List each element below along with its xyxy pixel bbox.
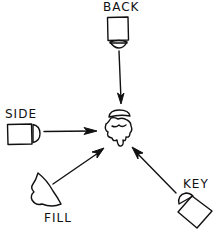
lighting-diagram: BACK SIDE FILL KEY xyxy=(0,0,224,229)
key-light-icon xyxy=(178,193,212,228)
side-arrow xyxy=(44,128,97,135)
fill-label: FILL xyxy=(44,212,72,224)
back-label: BACK xyxy=(103,1,139,13)
fill-arrow xyxy=(53,148,104,184)
side-label: SIDE xyxy=(5,108,37,120)
side-light-icon xyxy=(8,124,41,145)
fill-light-icon xyxy=(31,173,61,206)
subject-icon xyxy=(105,110,131,146)
key-arrow xyxy=(132,147,176,193)
back-light-icon xyxy=(108,17,129,48)
back-arrow xyxy=(118,51,125,104)
key-label: KEY xyxy=(183,178,209,190)
